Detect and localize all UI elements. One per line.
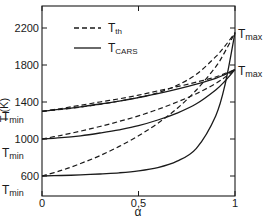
- plot-frame: [42, 6, 235, 196]
- y-axis-ticks: 6001000140018002200: [15, 22, 235, 182]
- annotation-t-max: Tmax: [238, 64, 263, 79]
- curve-solid-1: [42, 70, 235, 112]
- temperature-vs-alpha-chart: 6001000140018002200 00,51 T (K) α TthTCA…: [0, 0, 267, 222]
- legend: TthTCARS: [74, 21, 138, 56]
- curve-dashed-2: [42, 70, 235, 139]
- curves: [42, 33, 235, 176]
- y-tick-label: 1800: [15, 59, 39, 71]
- legend-label: Tth: [108, 21, 122, 36]
- y-tick-label: 1000: [15, 133, 39, 145]
- x-tick-label: 0: [39, 197, 45, 209]
- x-tick-label: 1: [232, 197, 238, 209]
- annotation-t-max: Tmax: [238, 27, 263, 42]
- curve-solid-5: [42, 33, 235, 176]
- annotation-t-min: Tmin: [2, 183, 24, 198]
- y-tick-label: 1400: [15, 96, 39, 108]
- curve-dashed-6: [42, 33, 235, 112]
- annotation-t-min: Tmin: [2, 146, 24, 161]
- curve-solid-3: [42, 70, 235, 139]
- y-tick-label: 2200: [15, 22, 39, 34]
- annotation-t-min: Tmin: [2, 110, 24, 125]
- plot-svg: 6001000140018002200 00,51 T (K) α TthTCA…: [0, 0, 267, 222]
- curve-dashed-0: [42, 70, 235, 112]
- x-axis-label: α: [135, 205, 142, 219]
- legend-label: TCARS: [108, 41, 138, 56]
- y-tick-label: 600: [21, 170, 39, 182]
- curve-dashed-4: [42, 33, 235, 176]
